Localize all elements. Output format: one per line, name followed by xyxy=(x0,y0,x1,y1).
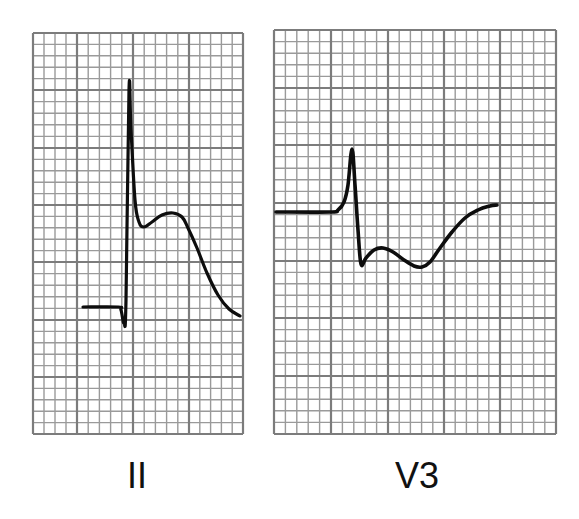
lead-v3-grid xyxy=(274,30,556,434)
lead-v3-panel xyxy=(274,30,556,434)
ecg-figure: II V3 xyxy=(0,0,579,519)
lead-ii-grid xyxy=(33,33,243,434)
lead-v3-label: V3 xyxy=(377,458,457,494)
lead-ii-waveform xyxy=(83,80,240,326)
lead-ii-panel xyxy=(33,33,243,434)
lead-ii-label: II xyxy=(97,458,177,494)
ecg-strips-canvas xyxy=(0,0,579,519)
